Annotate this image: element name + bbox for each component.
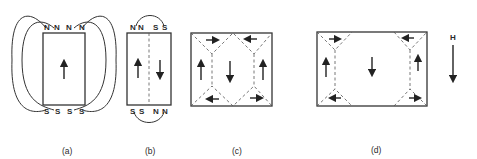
panel-c: (c) <box>191 33 272 156</box>
pole-label: S <box>130 107 136 116</box>
panel-d: (d) <box>317 32 427 155</box>
magnetic-domains-diagram: N N N N S S S S (a) N N S S S S N N (b) <box>0 0 477 159</box>
domain-box-c <box>191 33 272 106</box>
pole-label: S <box>139 107 145 116</box>
field-line-inner-right <box>74 22 106 110</box>
pole-label: N <box>66 23 72 32</box>
pole-label: N <box>54 23 60 32</box>
pole-label: S <box>67 107 73 116</box>
pole-label: N <box>153 107 159 116</box>
panel-a: N N N N S S S S (a) <box>12 16 116 156</box>
panel-label-c: (c) <box>232 146 242 156</box>
field-line-outer-right <box>82 16 116 111</box>
closure-wall-bottom <box>191 86 272 106</box>
pole-label: N <box>130 23 136 32</box>
pole-label: N <box>138 23 144 32</box>
field-line-inner-left <box>22 22 54 110</box>
panel-b: N N S S S S N N (b) <box>127 16 171 157</box>
pole-label: S <box>153 23 159 32</box>
panel-label-a: (a) <box>62 146 73 156</box>
panel-label-d: (d) <box>371 145 382 155</box>
closure-wall-top-right <box>394 32 427 50</box>
pole-label: S <box>44 107 50 116</box>
pole-label: N <box>79 23 85 32</box>
field-label-h: H <box>450 33 456 42</box>
pole-label: S <box>55 107 61 116</box>
pole-label: S <box>79 107 85 116</box>
applied-field: H <box>450 33 456 79</box>
pole-label: S <box>162 23 168 32</box>
panel-label-b: (b) <box>145 146 156 156</box>
closure-wall-top-left <box>317 32 352 50</box>
field-line-outer-left <box>12 16 46 111</box>
pole-label: N <box>44 23 50 32</box>
closure-wall-top <box>191 33 272 54</box>
pole-label: N <box>162 107 168 116</box>
